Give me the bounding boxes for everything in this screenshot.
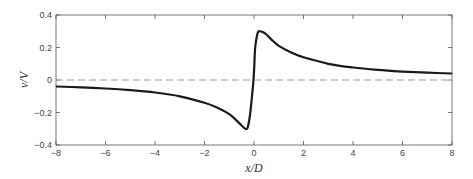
chart: −8−6−4−202468−0.4−0.200.20.4 x/D v/V: [0, 0, 473, 179]
x-tick-label: 0: [251, 148, 256, 158]
y-tick-label: 0.4: [39, 10, 52, 20]
x-tick-label: −2: [199, 148, 209, 158]
x-axis-label: x/D: [244, 161, 263, 175]
x-tick-label: −6: [100, 148, 110, 158]
plot-series: [56, 31, 452, 129]
x-tick-label: −4: [150, 148, 160, 158]
x-tick-label: −8: [51, 148, 61, 158]
x-tick-label: 2: [301, 148, 306, 158]
x-tick-label: 8: [449, 148, 454, 158]
x-tick-label: 4: [350, 148, 355, 158]
y-tick-label: −0.4: [34, 140, 52, 150]
y-tick-label: 0.2: [39, 43, 52, 53]
y-tick-label: 0: [47, 75, 52, 85]
y-axis-label: v/V: [17, 70, 31, 88]
x-tick-label: 6: [400, 148, 405, 158]
y-tick-label: −0.2: [34, 108, 52, 118]
plot-axes: −8−6−4−202468−0.4−0.200.20.4: [34, 10, 454, 158]
